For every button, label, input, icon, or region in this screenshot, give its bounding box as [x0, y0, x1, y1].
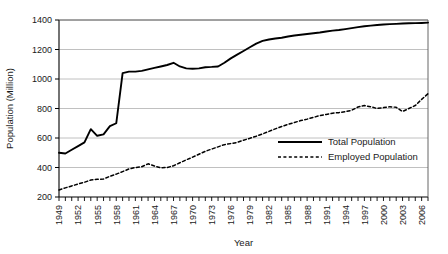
legend-label: Total Population	[328, 136, 396, 147]
legend-label: Employed Population	[328, 151, 418, 162]
x-tick-label: 1994	[341, 205, 351, 225]
series-line-total-population	[59, 23, 428, 154]
x-tick-label: 1991	[322, 205, 332, 225]
x-tick-label: 1961	[131, 205, 141, 225]
y-tick-label: 400	[37, 163, 52, 173]
x-tick-label: 1958	[112, 205, 122, 225]
x-tick-label: 1970	[188, 205, 198, 225]
x-tick-label: 1952	[73, 205, 83, 225]
chart-canvas: 200400600800100012001400 194919521955195…	[0, 0, 448, 254]
y-tick-label: 200	[37, 192, 52, 202]
y-tick-label: 1400	[32, 15, 52, 25]
x-tick-label: 1973	[207, 205, 217, 225]
x-tick-label: 1964	[150, 205, 160, 225]
x-axis: 1949195219551958196119641967197019731976…	[54, 197, 428, 225]
x-tick-label: 1982	[264, 205, 274, 225]
data-series	[59, 23, 428, 190]
population-line-chart: 200400600800100012001400 194919521955195…	[0, 0, 448, 254]
x-tick-label: 1949	[54, 205, 64, 225]
y-tick-label: 600	[37, 133, 52, 143]
chart-legend: Total PopulationEmployed Population	[278, 136, 418, 162]
x-tick-label: 2006	[417, 205, 427, 225]
y-tick-label: 1200	[32, 45, 52, 55]
x-tick-label: 1985	[283, 205, 293, 225]
y-axis-title: Population (Million)	[4, 68, 15, 149]
x-tick-label: 1967	[169, 205, 179, 225]
y-tick-label: 800	[37, 104, 52, 114]
y-tick-label: 1000	[32, 74, 52, 84]
x-tick-label: 1988	[303, 205, 313, 225]
x-tick-label: 1997	[360, 205, 370, 225]
y-axis: 200400600800100012001400	[32, 15, 59, 202]
x-tick-label: 1955	[93, 205, 103, 225]
x-tick-label: 1979	[245, 205, 255, 225]
x-tick-label: 1976	[226, 205, 236, 225]
x-axis-title: Year	[234, 237, 253, 248]
x-tick-label: 2003	[398, 205, 408, 225]
x-tick-label: 2000	[379, 205, 389, 225]
